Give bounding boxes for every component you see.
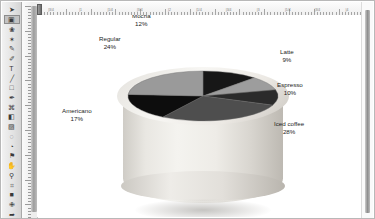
- horizontal-ruler: |3/4|1|1/4|3/4|2|1/4|3/4|3|1/4|3/4|4: [37, 2, 361, 16]
- ruler-label: |2: [168, 8, 171, 12]
- line-icon[interactable]: ╱: [4, 73, 20, 83]
- hand-icon[interactable]: ✋: [4, 161, 20, 171]
- pie-label-iced-coffee-pct: 28%: [274, 128, 304, 136]
- vertical-scrollbar-thumb[interactable]: [365, 10, 370, 213]
- eraser-icon[interactable]: ◧: [4, 112, 20, 122]
- pie-label-mocha-pct: 12%: [132, 20, 151, 28]
- lasso-icon[interactable]: ❀: [4, 24, 20, 34]
- ruler-origin-marker[interactable]: [37, 4, 42, 15]
- ruler-label: |3/4: [48, 8, 54, 12]
- marquee-select-icon[interactable]: ▣: [4, 15, 20, 25]
- coffee-cup-illustration[interactable]: [117, 53, 289, 217]
- pie-label-espresso-pct: 10%: [277, 89, 303, 97]
- pie-label-iced-coffee: Iced coffee 28%: [274, 120, 304, 136]
- blur-icon[interactable]: ◌: [4, 132, 20, 142]
- ruler-label: |3: [257, 8, 260, 12]
- magic-wand-icon[interactable]: ✶: [4, 34, 20, 44]
- foreground-color-swatch-icon[interactable]: ■: [4, 190, 20, 200]
- crop-icon[interactable]: ⌗: [4, 180, 20, 190]
- pie-slice-regular[interactable]: [128, 71, 203, 96]
- cup-shadow: [135, 199, 271, 217]
- pie-label-latte-pct: 9%: [280, 56, 294, 64]
- dodge-icon[interactable]: ◔: [4, 141, 20, 151]
- healing-brush-icon[interactable]: ✙: [4, 200, 20, 210]
- vertical-scrollbar[interactable]: [361, 2, 373, 219]
- pie-label-regular-name: Regular: [99, 35, 121, 42]
- pie-label-mocha: Mocha 12%: [132, 15, 151, 28]
- eyedropper-icon[interactable]: ✒: [4, 93, 20, 103]
- pie-label-iced-coffee-name: Iced coffee: [274, 120, 304, 127]
- pie-label-regular: Regular 24%: [99, 35, 121, 51]
- pie-chart[interactable]: [128, 71, 278, 121]
- move-icon[interactable]: ➤: [4, 5, 20, 15]
- pie-label-latte-name: Latte: [280, 48, 294, 55]
- pie-label-americano-name: Americano: [62, 107, 92, 114]
- zoom-icon[interactable]: ⚲: [4, 170, 20, 180]
- paint-bucket-icon[interactable]: ⚑: [4, 151, 20, 161]
- pie-label-regular-pct: 24%: [99, 43, 121, 51]
- pie-label-espresso: Espresso 10%: [277, 81, 303, 97]
- ruler-label: |1/4: [285, 8, 291, 12]
- path-select-icon[interactable]: ➦: [4, 209, 20, 219]
- pie-chart-svg[interactable]: [128, 71, 278, 121]
- ruler-label: |1/4: [107, 8, 113, 12]
- ruler-label: |1/4: [196, 8, 202, 12]
- gradient-icon[interactable]: ▨: [4, 122, 20, 132]
- ruler-label: |1: [79, 8, 82, 12]
- pencil-icon[interactable]: ✐: [4, 54, 20, 64]
- editor-window: ➤▣❀✶✎✐T╱□✒⌘◧▨◌◔⚑✋⚲⌗■✙➦ |3/4|1|1/4|3/4|2|…: [0, 0, 375, 219]
- cup-base-lip: [121, 171, 285, 201]
- type-icon[interactable]: T: [4, 63, 20, 73]
- pie-label-mocha-name: Mocha: [132, 15, 151, 19]
- pie-label-latte: Latte 9%: [280, 48, 294, 64]
- tool-palette[interactable]: ➤▣❀✶✎✐T╱□✒⌘◧▨◌◔⚑✋⚲⌗■✙➦: [2, 2, 22, 219]
- ruler-label: |4: [346, 8, 349, 12]
- pie-label-americano-pct: 17%: [62, 115, 92, 123]
- ruler-label: |3/4: [137, 8, 143, 12]
- clone-stamp-icon[interactable]: ⌘: [4, 102, 20, 112]
- pie-label-espresso-name: Espresso: [277, 81, 303, 88]
- brush-icon[interactable]: ✎: [4, 44, 20, 54]
- shape-icon[interactable]: □: [4, 83, 20, 93]
- ruler-label: |3/4: [315, 8, 321, 12]
- ruler-label: |3/4: [226, 8, 232, 12]
- pie-label-americano: Americano 17%: [62, 107, 92, 123]
- canvas-area[interactable]: Mocha 12% Regular 24% Latte 9% Espresso …: [37, 15, 361, 217]
